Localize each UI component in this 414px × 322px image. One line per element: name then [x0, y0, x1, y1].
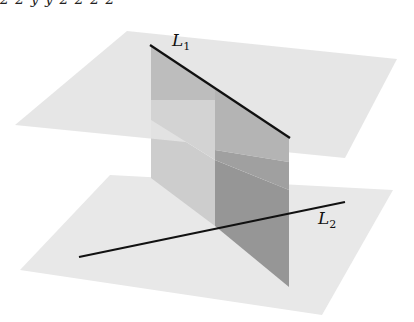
diagram-canvas [0, 0, 414, 322]
cut-off-formula-text: 2 2 y y 2 2 2 2 [0, 0, 414, 7]
label-l1: L1 [172, 30, 190, 53]
label-l2: L2 [318, 208, 336, 231]
skew-lines-diagram: 2 2 y y 2 2 2 2 L1 L2 [0, 0, 414, 322]
